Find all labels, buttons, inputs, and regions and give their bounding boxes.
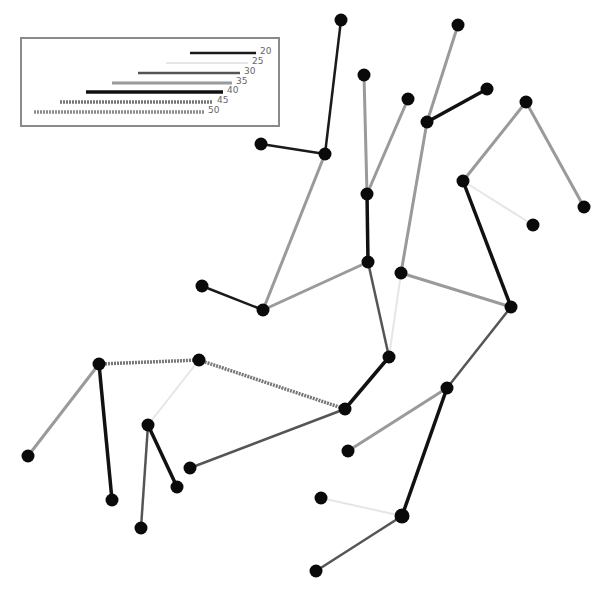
legend-label-50: 50 xyxy=(208,105,219,115)
node-K xyxy=(578,201,591,214)
node-F xyxy=(361,188,374,201)
edge-Y-AB xyxy=(141,425,148,528)
node-AB xyxy=(135,522,148,535)
edge-F-P xyxy=(367,194,368,262)
edge-T-U xyxy=(99,360,199,364)
node-P xyxy=(362,256,375,269)
edge-A-C xyxy=(325,20,341,154)
node-E xyxy=(402,93,415,106)
edge-Q-R xyxy=(401,273,511,307)
node-W xyxy=(441,382,454,395)
edge-I-Q xyxy=(401,122,427,273)
edge-E-F xyxy=(367,99,408,194)
edge-AF-AG xyxy=(316,516,402,571)
node-D xyxy=(358,69,371,82)
edge-T-X xyxy=(28,364,99,456)
edge-B-C xyxy=(261,144,325,154)
node-L xyxy=(457,175,470,188)
edge-W-AD xyxy=(348,388,447,451)
edge-P-S xyxy=(368,262,389,357)
edge-U-Y xyxy=(148,360,199,425)
edge-AF-AE xyxy=(321,498,402,516)
node-I xyxy=(421,116,434,129)
node-T xyxy=(93,358,106,371)
node-N xyxy=(196,280,209,293)
edge-U-V xyxy=(199,360,345,409)
legend-label-20: 20 xyxy=(260,46,271,56)
node-R xyxy=(505,301,518,314)
node-G xyxy=(452,19,465,32)
node-Q xyxy=(395,267,408,280)
edge-N-O xyxy=(202,286,263,310)
edge-AC-V xyxy=(190,409,345,468)
node-X xyxy=(22,450,35,463)
edge-D-F xyxy=(364,75,367,194)
node-B xyxy=(255,138,268,151)
node-AD xyxy=(342,445,355,458)
node-O xyxy=(257,304,270,317)
edge-L-M xyxy=(463,181,533,225)
node-U xyxy=(193,354,206,367)
legend-label-30: 30 xyxy=(244,66,255,76)
edge-S-V xyxy=(345,357,389,409)
edge-Q-S xyxy=(389,273,401,357)
legend-label-25: 25 xyxy=(252,56,263,66)
node-V xyxy=(339,403,352,416)
node-AE xyxy=(315,492,328,505)
edge-J-K xyxy=(526,102,584,207)
legend-label-45: 45 xyxy=(217,95,228,105)
legend-label-40: 40 xyxy=(227,85,238,95)
legend: 20253035404550 xyxy=(20,37,280,127)
node-J xyxy=(520,96,533,109)
node-AF xyxy=(395,509,410,524)
edge-L-J xyxy=(463,102,526,181)
node-AG xyxy=(310,565,323,578)
node-A xyxy=(335,14,348,27)
edge-L-R xyxy=(463,181,511,307)
edge-W-AF xyxy=(402,388,447,516)
edge-Y-AA xyxy=(148,425,177,487)
node-AA xyxy=(171,481,184,494)
node-Z xyxy=(106,494,119,507)
node-C xyxy=(319,148,332,161)
edge-T-Z xyxy=(99,364,112,500)
node-AC xyxy=(184,462,197,475)
node-H xyxy=(481,83,494,96)
node-M xyxy=(527,219,540,232)
edge-R-W xyxy=(447,307,511,388)
node-S xyxy=(383,351,396,364)
node-Y xyxy=(142,419,155,432)
